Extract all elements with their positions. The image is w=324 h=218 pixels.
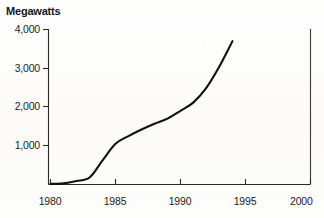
data-series-line bbox=[51, 41, 233, 184]
megawatts-line-chart: Megawatts 4,000 3,000 2,000 1,000 1980 1… bbox=[0, 0, 324, 218]
plot-area bbox=[0, 0, 324, 218]
